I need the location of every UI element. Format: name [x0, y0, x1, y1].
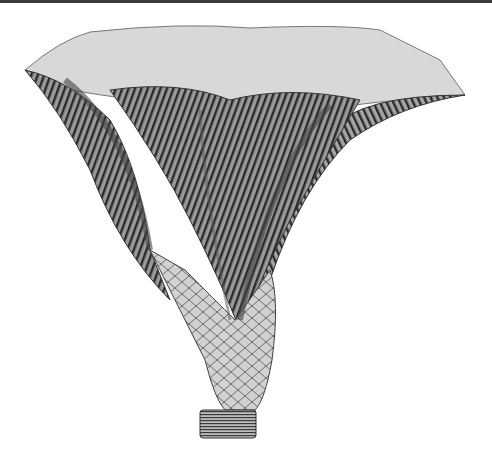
engraving-canvas: [0, 0, 492, 461]
central-arms: [110, 87, 360, 330]
stem: [200, 410, 256, 438]
crinoid-illustration: [0, 0, 492, 461]
